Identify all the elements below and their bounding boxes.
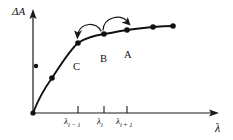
tick-label-lambda-i-minus-1: λi − 1 [64,117,81,126]
y-axis-label: ΔA [12,6,25,17]
data-point-c [75,40,81,46]
tick-label-subscript: i − 1 [68,121,81,128]
point-label-a: A [124,50,132,61]
figure-root: ΔA λ A B C λi − 1 λi λi + 1 [0,0,233,140]
point-label-c: C [73,62,80,73]
stray-marker [34,64,38,68]
tick-label-lambda-i: λi [97,117,103,126]
x-axis [33,109,219,116]
tick-label-subscript: i [101,121,103,128]
data-point-b [101,31,107,37]
arrow-b-to-a-path [103,17,127,30]
point-label-b: B [100,54,107,65]
saturation-curve [33,26,173,113]
tick-label-lambda-i-plus-1: λi + 1 [116,117,133,126]
tick-label-subscript: i + 1 [120,121,133,128]
x-axis-label: λ [215,122,220,134]
data-points [30,23,175,115]
data-point [49,75,55,81]
y-axis [29,9,36,113]
data-point [150,24,156,30]
data-point-a [124,27,130,33]
data-point [170,23,176,29]
arrow-b-to-c-path [78,24,101,33]
x-axis-ticks [78,106,127,113]
data-point [30,110,35,115]
